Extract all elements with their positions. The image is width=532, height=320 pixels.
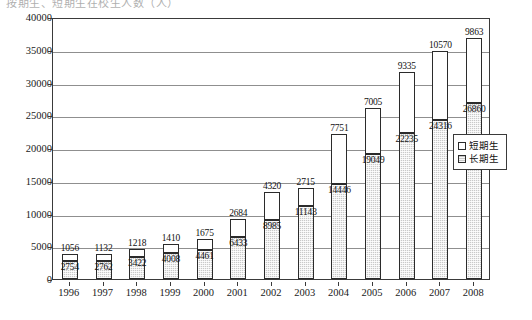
bar-segment-long (466, 103, 482, 279)
bar-segment-short (365, 108, 381, 154)
x-tick-label: 2007 (429, 287, 450, 298)
bar-segment-short (331, 134, 347, 185)
x-tick-label: 1998 (126, 287, 147, 298)
legend-label-long: 长期生 (469, 152, 499, 165)
plot-area: 2754105627621132342212184008141044611675… (52, 18, 490, 280)
y-tick-mark (48, 280, 52, 281)
x-tick-label: 2002 (261, 287, 282, 298)
bar-segment-short (432, 51, 448, 120)
x-tick-mark (338, 282, 339, 286)
x-tick-label: 2001 (227, 287, 248, 298)
bar-segment-short (264, 192, 280, 220)
data-label-short: 1132 (95, 243, 113, 253)
y-tick-label: 10000 (6, 210, 52, 220)
y-tick-label: 35000 (6, 46, 52, 56)
bar-group (230, 219, 246, 279)
bar-segment-short (163, 244, 179, 253)
bar-segment-short (230, 219, 246, 237)
legend-swatch-short-icon (458, 142, 466, 150)
y-tick-label: 40000 (6, 13, 52, 23)
bars-layer: 2754105627621132342212184008141044611675… (53, 19, 489, 279)
data-label-long: 26860 (463, 104, 486, 114)
y-tick-label: 0 (6, 275, 52, 285)
top-caption: 按期生、短期生在校生人数（人） (6, 0, 306, 8)
x-tick-mark (237, 282, 238, 286)
data-label-long: 6433 (229, 238, 247, 248)
data-label-short: 7005 (364, 97, 382, 107)
x-tick-mark (271, 282, 272, 286)
y-tick-label: 25000 (6, 111, 52, 121)
bar-group (365, 108, 381, 279)
x-tick-mark (204, 282, 205, 286)
data-label-long: 11143 (295, 207, 317, 217)
bar-segment-long (365, 154, 381, 279)
data-label-long: 14446 (328, 185, 351, 195)
chart-legend: 短期生 长期生 (453, 134, 507, 170)
x-tick-mark (69, 282, 70, 286)
data-label-short: 2684 (229, 208, 247, 218)
data-label-short: 4320 (263, 181, 281, 191)
x-tick-label: 1999 (159, 287, 180, 298)
bar-segment-short (298, 188, 314, 206)
x-tick-mark (473, 282, 474, 286)
bar-group (399, 72, 415, 279)
data-label-short: 7751 (330, 123, 348, 133)
x-tick-label: 2003 (294, 287, 315, 298)
data-label-short: 1675 (196, 228, 214, 238)
data-label-long: 3422 (128, 258, 146, 268)
data-label-long: 2754 (61, 262, 79, 272)
x-tick-mark (103, 282, 104, 286)
bar-segment-short (197, 239, 213, 250)
bar-group (298, 188, 314, 279)
x-tick-label: 2006 (395, 287, 416, 298)
x-tick-label: 1996 (58, 287, 79, 298)
x-tick-mark (170, 282, 171, 286)
data-label-short: 9335 (398, 61, 416, 71)
bar-segment-long (399, 133, 415, 279)
data-label-long: 4008 (162, 254, 180, 264)
y-axis: 0500010000150002000025000300003500040000 (0, 18, 52, 280)
bar-segment-long (331, 184, 347, 279)
bar-segment-short (96, 254, 112, 261)
data-label-short: 2715 (297, 177, 315, 187)
bar-segment-short (466, 38, 482, 103)
bar-segment-short (129, 249, 145, 257)
data-label-long: 22235 (395, 134, 418, 144)
data-label-long: 2762 (94, 262, 112, 272)
x-tick-label: 2008 (463, 287, 484, 298)
bar-group (264, 192, 280, 279)
x-tick-label: 2004 (328, 287, 349, 298)
bar-segment-short (62, 254, 78, 261)
data-label-short: 10570 (429, 40, 452, 50)
x-tick-label: 1997 (92, 287, 113, 298)
bar-segment-short (399, 72, 415, 133)
data-label-long: 8985 (263, 221, 281, 231)
x-tick-mark (305, 282, 306, 286)
y-tick-label: 20000 (6, 144, 52, 154)
legend-item-short: 短期生 (458, 139, 502, 152)
y-tick-label: 15000 (6, 177, 52, 187)
bar-segment-long (432, 120, 448, 279)
stacked-bar-chart: 按期生、短期生在校生人数（人） 050001000015000200002500… (0, 0, 532, 320)
x-tick-mark (439, 282, 440, 286)
x-tick-mark (406, 282, 407, 286)
data-label-short: 1056 (61, 243, 79, 253)
data-label-short: 9863 (465, 27, 483, 37)
y-tick-label: 30000 (6, 79, 52, 89)
x-tick-mark (372, 282, 373, 286)
x-tick-label: 2000 (193, 287, 214, 298)
data-label-long: 19049 (362, 155, 385, 165)
x-tick-label: 2005 (362, 287, 383, 298)
legend-item-long: 长期生 (458, 152, 502, 165)
x-tick-mark (136, 282, 137, 286)
bar-group (331, 134, 347, 279)
legend-swatch-long-icon (458, 155, 466, 163)
data-label-long: 24316 (429, 121, 452, 131)
x-axis: 1996199719981999200020012002200320042005… (52, 282, 490, 304)
data-label-short: 1410 (162, 233, 180, 243)
bar-group (432, 51, 448, 280)
data-label-short: 1218 (128, 238, 146, 248)
y-tick-label: 5000 (6, 242, 52, 252)
legend-label-short: 短期生 (469, 139, 499, 152)
data-label-long: 4461 (196, 251, 214, 261)
